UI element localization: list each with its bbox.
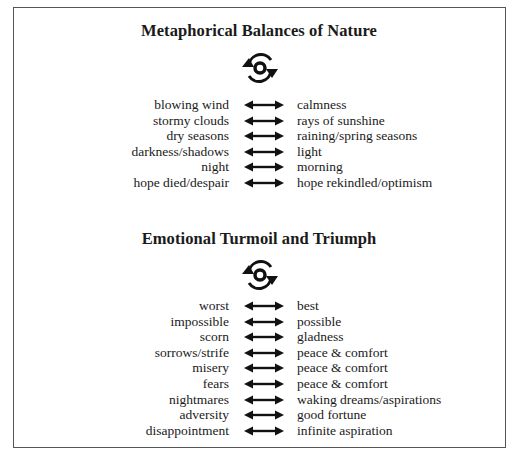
double-arrow-icon [244, 147, 284, 157]
pair-row: adversity good fortune [0, 407, 518, 423]
pair-row: sorrows/strife peace & comfort [0, 345, 518, 361]
pair-list-nature: blowing wind calmness stormy clouds rays… [0, 97, 518, 191]
pair-left: impossible [170, 314, 229, 330]
pair-left: darkness/shadows [132, 144, 230, 160]
pair-row: night morning [0, 159, 518, 175]
pair-right: morning [297, 159, 343, 175]
pair-row: stormy clouds rays of sunshine [0, 113, 518, 129]
section-title-nature: Metaphorical Balances of Nature [0, 21, 518, 41]
double-arrow-icon [244, 395, 284, 405]
pair-right: waking dreams/aspirations [297, 392, 441, 408]
section-title-emotion: Emotional Turmoil and Triumph [0, 229, 518, 249]
pair-left: hope died/despair [133, 175, 229, 191]
pair-row: worst best [0, 298, 518, 314]
double-arrow-icon [244, 363, 284, 373]
pair-left: disappointment [146, 423, 229, 439]
double-arrow-icon [244, 301, 284, 311]
pair-right: infinite aspiration [297, 423, 393, 439]
pair-left: scorn [200, 329, 229, 345]
double-arrow-icon [244, 426, 284, 436]
double-arrow-icon [244, 348, 284, 358]
pair-right: light [297, 144, 322, 160]
pair-right: peace & comfort [297, 345, 388, 361]
double-arrow-icon [244, 317, 284, 327]
pair-left: sorrows/strife [155, 345, 229, 361]
pair-left: night [201, 159, 229, 175]
pair-right: raining/spring seasons [297, 128, 417, 144]
pair-right: possible [297, 314, 341, 330]
pair-row: disappointment infinite aspiration [0, 423, 518, 439]
pair-right: calmness [297, 97, 347, 113]
pair-row: hope died/despair hope rekindled/optimis… [0, 175, 518, 191]
pair-row: impossible possible [0, 314, 518, 330]
double-arrow-icon [244, 332, 284, 342]
double-arrow-icon [244, 410, 284, 420]
pair-row: fears peace & comfort [0, 376, 518, 392]
pair-row: nightmares waking dreams/aspirations [0, 392, 518, 408]
pair-left: fears [203, 376, 229, 392]
pair-left: blowing wind [154, 97, 229, 113]
pair-right: peace & comfort [297, 376, 388, 392]
pair-row: darkness/shadows light [0, 144, 518, 160]
pair-row: dry seasons raining/spring seasons [0, 128, 518, 144]
pair-left: adversity [180, 407, 230, 423]
pair-left: misery [192, 360, 229, 376]
cycle-arrows-icon [237, 48, 283, 88]
pair-right: best [297, 298, 319, 314]
pair-left: worst [199, 298, 229, 314]
pair-right: rays of sunshine [297, 113, 385, 129]
pair-right: gladness [297, 329, 344, 345]
cycle-arrows-icon [237, 255, 283, 295]
double-arrow-icon [244, 162, 284, 172]
pair-row: misery peace & comfort [0, 360, 518, 376]
double-arrow-icon [244, 131, 284, 141]
double-arrow-icon [244, 116, 284, 126]
pair-left: dry seasons [166, 128, 229, 144]
pair-row: blowing wind calmness [0, 97, 518, 113]
pair-left: stormy clouds [153, 113, 229, 129]
pair-right: peace & comfort [297, 360, 388, 376]
double-arrow-icon [244, 379, 284, 389]
pair-right: good fortune [297, 407, 366, 423]
pair-row: scorn gladness [0, 329, 518, 345]
double-arrow-icon [244, 100, 284, 110]
pair-right: hope rekindled/optimism [297, 175, 432, 191]
pair-list-emotion: worst best impossible possible scorn gla… [0, 298, 518, 438]
double-arrow-icon [244, 178, 284, 188]
pair-left: nightmares [169, 392, 229, 408]
